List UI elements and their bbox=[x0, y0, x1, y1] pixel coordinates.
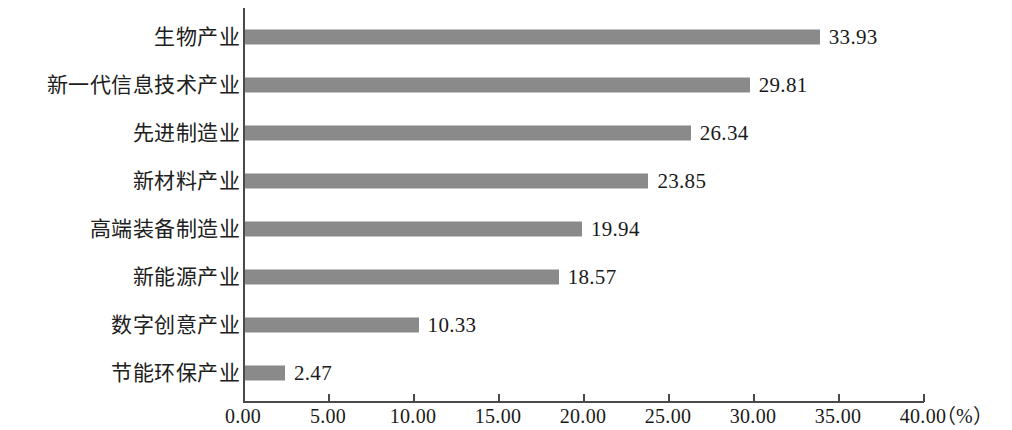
bar bbox=[243, 318, 419, 333]
bar-value-label: 23.85 bbox=[657, 171, 706, 192]
bar-value-label: 10.33 bbox=[428, 315, 477, 336]
category-label: 数字创意产业 bbox=[0, 315, 240, 336]
bar bbox=[243, 222, 582, 237]
x-axis-tick-label: 35.00 bbox=[815, 406, 862, 427]
category-label: 节能环保产业 bbox=[0, 363, 240, 384]
category-label: 新能源产业 bbox=[0, 267, 240, 288]
x-axis-tick-label: 5.00 bbox=[310, 406, 346, 427]
plot-area: 33.9329.8126.3423.8519.9418.5710.332.47 bbox=[243, 8, 1008, 403]
x-axis-tick bbox=[923, 394, 925, 402]
x-axis-tick-label: 10.00 bbox=[390, 406, 437, 427]
x-axis-tick-label: 30.00 bbox=[730, 406, 777, 427]
x-axis-tick bbox=[753, 394, 755, 402]
bar-value-label: 29.81 bbox=[759, 75, 808, 96]
bar-value-label: 33.93 bbox=[829, 27, 878, 48]
category-label: 生物产业 bbox=[0, 27, 240, 48]
x-axis-tick bbox=[583, 394, 585, 402]
bar-value-label: 2.47 bbox=[294, 363, 332, 384]
bar bbox=[243, 78, 750, 93]
x-axis-tick-label: 0.00 bbox=[225, 406, 261, 427]
x-axis-tick bbox=[328, 394, 330, 402]
x-axis-unit-label: （%） bbox=[936, 406, 993, 427]
bar-value-label: 26.34 bbox=[700, 123, 749, 144]
bar bbox=[243, 174, 648, 189]
x-axis-tick bbox=[243, 394, 245, 402]
bar bbox=[243, 270, 559, 285]
category-label: 先进制造业 bbox=[0, 123, 240, 144]
bar-value-label: 19.94 bbox=[591, 219, 640, 240]
bar bbox=[243, 30, 820, 45]
bar bbox=[243, 366, 285, 381]
x-axis-tick-label: 15.00 bbox=[475, 406, 522, 427]
category-label: 新材料产业 bbox=[0, 171, 240, 192]
x-axis-tick-label: 20.00 bbox=[560, 406, 607, 427]
x-axis-tick bbox=[668, 394, 670, 402]
bar-value-label: 18.57 bbox=[568, 267, 617, 288]
bar-chart: 生物产业新一代信息技术产业先进制造业新材料产业高端装备制造业新能源产业数字创意产… bbox=[0, 0, 1012, 430]
x-axis-tick bbox=[838, 394, 840, 402]
x-axis-tick-label: 25.00 bbox=[645, 406, 692, 427]
category-label: 新一代信息技术产业 bbox=[0, 75, 240, 96]
bar bbox=[243, 126, 691, 141]
category-label: 高端装备制造业 bbox=[0, 219, 240, 240]
x-axis-tick bbox=[413, 394, 415, 402]
x-axis-tick bbox=[498, 394, 500, 402]
y-axis-line bbox=[243, 8, 245, 403]
